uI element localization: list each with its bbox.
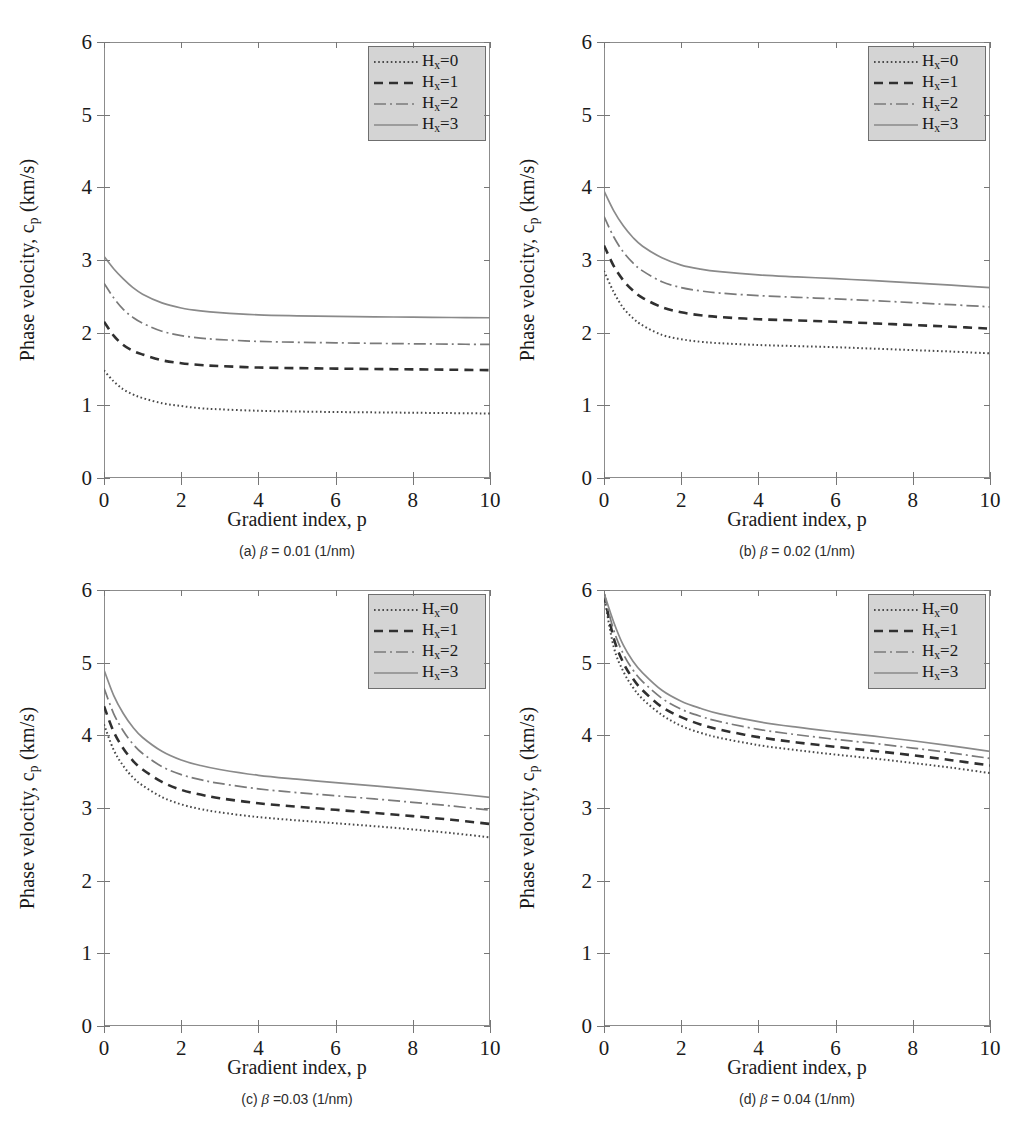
y-axis-title-pre: Phase velocity, c (16, 772, 38, 909)
legend-item-label: Hx=0 (419, 600, 458, 620)
y-axis-tick-right (484, 260, 490, 261)
y-axis-tick-label: 6 (82, 578, 93, 603)
x-axis-tick (181, 1026, 182, 1033)
y-axis-title-pre: Phase velocity, c (16, 224, 38, 361)
legend-line-sample-icon (873, 604, 919, 616)
y-axis-tick-label: 3 (82, 796, 93, 821)
plot-area-a: Hx=0Hx=1Hx=2Hx=3 01234560246810 (104, 42, 490, 478)
y-axis-tick-label: 6 (582, 578, 593, 603)
legend-d: Hx=0Hx=1Hx=2Hx=3 (868, 594, 986, 689)
y-axis-tick-inner (104, 735, 110, 736)
x-axis-tick-inner (181, 472, 182, 478)
y-axis-tick-right (484, 735, 490, 736)
caption-index: (c) (241, 1091, 261, 1107)
y-axis-tick (597, 590, 604, 591)
y-axis-tick (97, 115, 104, 116)
series-line-Hx-2 (604, 216, 990, 306)
legend-item-hx=1[interactable]: Hx=1 (373, 620, 480, 641)
y-axis-title: Phase velocity, cp (km/s) (16, 590, 42, 1026)
x-axis-tick-inner (258, 472, 259, 478)
y-axis-tick-right (984, 115, 990, 116)
legend-item-hx=3[interactable]: Hx=3 (373, 114, 480, 135)
y-axis-tick (97, 590, 104, 591)
y-axis-tick-label: 2 (582, 320, 593, 345)
y-axis-tick-label: 0 (582, 466, 593, 491)
legend-item-label: Hx=1 (919, 73, 958, 93)
y-axis-tick-label: 0 (82, 466, 93, 491)
y-axis-tick-inner (604, 808, 610, 809)
y-axis-tick (597, 260, 604, 261)
x-axis-tick-top (413, 42, 414, 48)
y-axis-tick (97, 953, 104, 954)
x-axis-tick-inner (336, 1020, 337, 1026)
x-axis-tick-top (490, 42, 491, 48)
legend-item-hx=2[interactable]: Hx=2 (873, 641, 980, 662)
x-axis-tick-inner (413, 472, 414, 478)
legend-item-label: Hx=2 (919, 94, 958, 114)
legend-item-hx=1[interactable]: Hx=1 (873, 620, 980, 641)
plot-area-b: Hx=0Hx=1Hx=2Hx=3 01234560246810 (604, 42, 990, 478)
y-axis-title-sub: p (26, 217, 41, 224)
y-axis-tick-label: 4 (82, 175, 93, 200)
y-axis-tick-label: 4 (582, 175, 593, 200)
legend-item-hx=3[interactable]: Hx=3 (873, 114, 980, 135)
y-axis-tick (597, 478, 604, 479)
y-axis-tick-inner (604, 881, 610, 882)
y-axis-tick-label: 6 (82, 30, 93, 55)
y-axis-tick-right (484, 405, 490, 406)
y-axis-title-pre: Phase velocity, c (516, 224, 538, 361)
x-axis-tick (913, 1026, 914, 1033)
x-axis-tick (913, 478, 914, 485)
y-axis-tick-right (984, 405, 990, 406)
x-axis-tick (336, 1026, 337, 1033)
y-axis-tick-right (484, 663, 490, 664)
legend-a: Hx=0Hx=1Hx=2Hx=3 (368, 46, 486, 141)
legend-item-hx=0[interactable]: Hx=0 (373, 51, 480, 72)
y-axis-tick-inner (604, 333, 610, 334)
x-axis-tick-top (681, 42, 682, 48)
legend-item-label: Hx=3 (919, 115, 958, 135)
legend-line-sample-icon (873, 56, 919, 68)
legend-item-hx=3[interactable]: Hx=3 (873, 662, 980, 683)
y-axis-tick-right (984, 881, 990, 882)
legend-item-hx=2[interactable]: Hx=2 (373, 641, 480, 662)
legend-item-label: Hx=2 (919, 642, 958, 662)
x-axis-tick-top (104, 42, 105, 48)
legend-item-hx=1[interactable]: Hx=1 (873, 72, 980, 93)
x-axis-tick-top (913, 590, 914, 596)
panel-a: Phase velocity, cp (km/s) Hx=0Hx=1Hx=2Hx… (0, 0, 500, 575)
y-axis-tick (597, 953, 604, 954)
legend-item-hx=3[interactable]: Hx=3 (373, 662, 480, 683)
y-axis-tick-inner (604, 260, 610, 261)
x-axis-tick-top (181, 42, 182, 48)
x-axis-tick-inner (104, 1020, 105, 1026)
x-axis-tick-inner (490, 472, 491, 478)
legend-line-sample-icon (873, 98, 919, 110)
y-axis-tick-inner (104, 405, 110, 406)
y-axis-tick (97, 187, 104, 188)
x-axis-tick (258, 1026, 259, 1033)
x-axis-tick (758, 1026, 759, 1033)
legend-item-hx=2[interactable]: Hx=2 (873, 93, 980, 114)
legend-item-hx=0[interactable]: Hx=0 (873, 51, 980, 72)
legend-item-hx=1[interactable]: Hx=1 (373, 72, 480, 93)
y-axis-tick-label: 0 (582, 1014, 593, 1039)
y-axis-tick-inner (104, 187, 110, 188)
x-axis-tick (413, 478, 414, 485)
x-axis-tick-top (990, 42, 991, 48)
legend-item-label: Hx=0 (919, 600, 958, 620)
legend-line-sample-icon (373, 667, 419, 679)
legend-item-hx=2[interactable]: Hx=2 (373, 93, 480, 114)
legend-line-sample-icon (873, 646, 919, 658)
x-axis-tick-top (836, 590, 837, 596)
series-line-Hx-3 (604, 191, 990, 288)
x-axis-tick-inner (490, 1020, 491, 1026)
y-axis-title-post: (km/s) (16, 707, 38, 766)
y-axis-tick-right (984, 735, 990, 736)
y-axis-tick (597, 735, 604, 736)
x-axis-tick (490, 1026, 491, 1033)
y-axis-tick (597, 115, 604, 116)
y-axis-tick-inner (104, 260, 110, 261)
legend-item-hx=0[interactable]: Hx=0 (373, 599, 480, 620)
legend-item-hx=0[interactable]: Hx=0 (873, 599, 980, 620)
